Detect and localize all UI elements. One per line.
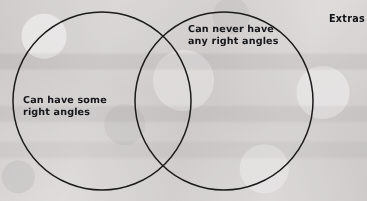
extras-label: Extras [329, 13, 365, 25]
venn-diagram-page: Can have some right angles Can never hav… [0, 0, 367, 201]
left-circle-label: Can have some right angles [23, 95, 107, 119]
right-circle-label: Can never have any right angles [188, 24, 279, 48]
